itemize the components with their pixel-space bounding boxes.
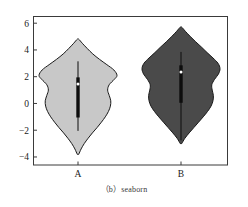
y-tick-label-4: 4 (24, 45, 29, 55)
figure-caption: （b）seaborn (0, 183, 248, 194)
y-tick-label-0: 0 (24, 99, 29, 109)
y-tick-label-6: 6 (24, 19, 29, 29)
y-tick-label--4: −4 (19, 152, 29, 162)
figure: 6420−2−4 AB （b）seaborn (0, 0, 248, 207)
violin-plot: 6420−2−4 AB (0, 0, 248, 207)
y-tick-label--2: −2 (19, 126, 29, 136)
box-median-marker-A (77, 83, 80, 86)
box-median-marker-B (180, 71, 183, 74)
x-tick-label-A: A (75, 169, 82, 179)
y-tick-label-2: 2 (24, 72, 29, 82)
x-tick-label-B: B (178, 169, 184, 179)
